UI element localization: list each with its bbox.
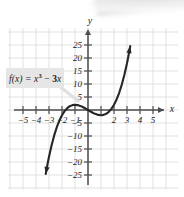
ytick-label: −5 <box>71 118 82 128</box>
ytick-label: −10 <box>67 131 83 141</box>
xtick-label: 5 <box>151 115 156 125</box>
y-axis-label: y <box>87 15 93 26</box>
xtick-label: 4 <box>138 115 143 125</box>
ytick-label: −20 <box>67 157 83 167</box>
xtick-label: −4 <box>31 115 42 125</box>
ytick-label: 10 <box>73 79 83 89</box>
ytick-label: −25 <box>67 170 83 180</box>
xtick-label: 3 <box>124 115 130 125</box>
ytick-label: 25 <box>73 40 83 50</box>
ytick-label: −15 <box>67 144 83 154</box>
ytick-label: 20 <box>73 53 83 63</box>
function-variable: x <box>57 74 61 84</box>
xtick-label: 2 <box>112 115 117 125</box>
x-axis-label: x <box>169 103 175 114</box>
xtick-label: −3 <box>44 115 55 125</box>
x-axis-arrow <box>158 107 164 113</box>
function-label-text: f(x) = x <box>9 74 38 84</box>
function-label-callout: f(x) = x3 − 3x <box>6 68 64 88</box>
xtick-label: −5 <box>18 115 29 125</box>
ytick-label: 15 <box>73 66 83 76</box>
function-graph: −5 −4 −3 −2 −1 2 3 4 5 25 20 15 10 5 −5 … <box>0 0 184 197</box>
function-minus: − <box>42 74 52 84</box>
